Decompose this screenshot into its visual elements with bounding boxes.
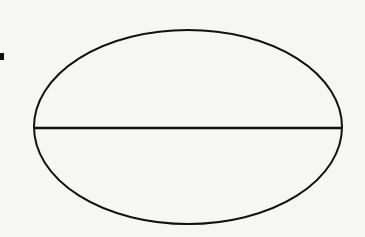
ellipse-diagram: [0, 0, 365, 237]
diagram-canvas: [0, 0, 365, 237]
square-marker: [0, 53, 4, 60]
